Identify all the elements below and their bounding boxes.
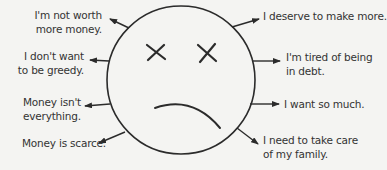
label-line: I don't want: [8, 49, 84, 63]
arrows: [85, 19, 280, 144]
label-line: I want so much.: [284, 97, 364, 111]
label-line: I'm tired of being: [286, 50, 372, 64]
label-tired-debt: I'm tired of being in debt.: [286, 50, 372, 78]
sad-face-icon: [107, 6, 255, 154]
arrow-not-greedy: [90, 60, 109, 61]
right-eye-x-icon: [198, 44, 216, 62]
arrow-not-worth: [110, 19, 129, 28]
label-line: Money is scarce.: [22, 136, 106, 150]
label-line: everything.: [23, 109, 81, 123]
label-isnt-everything: Money isn't everything.: [23, 95, 81, 123]
arrow-deserve: [232, 19, 259, 27]
frown-mouth: [155, 104, 220, 128]
label-line: in debt.: [286, 64, 372, 78]
label-line: more money.: [30, 22, 102, 36]
label-want-much: I want so much.: [284, 97, 364, 111]
arrow-family: [237, 128, 258, 144]
label-line: I'm not worth: [30, 8, 102, 22]
label-not-worth: I'm not worth more money.: [30, 8, 102, 36]
label-not-greedy: I don't want to be greedy.: [8, 49, 84, 77]
arrow-isnt-everything: [85, 104, 110, 106]
left-eye-x-icon: [147, 45, 165, 60]
label-deserve: I deserve to make more.: [263, 9, 387, 23]
label-line: I deserve to make more.: [263, 9, 387, 23]
label-line: Money isn't: [23, 95, 81, 109]
label-family: I need to take care of my family.: [263, 133, 358, 161]
label-line: to be greedy.: [8, 63, 84, 77]
label-line: I need to take care: [263, 133, 358, 147]
label-line: of my family.: [263, 147, 358, 161]
label-scarce: Money is scarce.: [22, 136, 106, 150]
